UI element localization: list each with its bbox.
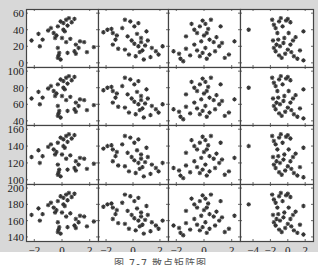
data-point: [156, 110, 160, 114]
data-point: [188, 53, 192, 57]
data-point: [199, 214, 203, 218]
data-point: [36, 148, 40, 152]
data-point: [128, 77, 132, 81]
data-point: [200, 225, 204, 229]
panel-r1-c3: [168, 9, 241, 68]
panel-r4-c1: [26, 184, 99, 242]
data-point: [213, 166, 217, 170]
data-point: [72, 75, 76, 79]
data-point: [72, 17, 76, 21]
data-point: [192, 100, 196, 104]
data-point: [53, 152, 57, 156]
data-point: [115, 33, 119, 37]
data-point: [203, 138, 207, 142]
data-point: [286, 47, 290, 51]
data-point: [116, 105, 120, 109]
data-point: [282, 36, 286, 40]
data-point: [133, 171, 137, 175]
data-point: [278, 102, 282, 106]
data-point: [120, 84, 124, 88]
data-point: [72, 107, 76, 111]
panel-r1-c2: [98, 9, 169, 68]
data-point: [275, 147, 279, 151]
data-point: [65, 198, 69, 202]
data-point: [61, 28, 65, 32]
data-point: [53, 210, 57, 214]
data-point: [280, 24, 284, 28]
data-point: [125, 92, 129, 96]
data-point: [56, 53, 60, 57]
y-tick-label: 160: [8, 123, 25, 135]
data-point: [189, 80, 193, 84]
data-point: [92, 219, 96, 223]
data-point: [276, 154, 280, 158]
x-tick-label: 0: [59, 244, 65, 252]
data-point: [109, 85, 113, 89]
data-point: [150, 220, 154, 224]
data-point: [286, 31, 290, 35]
data-point: [279, 132, 283, 136]
data-point: [286, 164, 290, 168]
data-point: [189, 138, 193, 142]
data-point: [132, 100, 136, 104]
data-point: [105, 28, 109, 32]
data-point: [223, 173, 227, 177]
data-point: [213, 107, 217, 111]
data-point: [61, 144, 65, 148]
data-point: [295, 231, 299, 235]
data-point: [49, 26, 53, 30]
data-point: [148, 229, 152, 233]
data-point: [292, 171, 296, 175]
data-point: [146, 213, 150, 217]
data-point: [78, 156, 82, 160]
data-point: [211, 40, 215, 44]
data-point: [58, 174, 62, 178]
data-point: [207, 37, 211, 41]
data-point: [111, 205, 115, 209]
data-point: [207, 169, 211, 173]
data-point: [293, 35, 297, 39]
data-point: [301, 175, 305, 179]
data-point: [40, 154, 44, 158]
x-tick-label: 2: [157, 244, 163, 252]
data-point: [280, 114, 284, 118]
data-point: [273, 49, 277, 53]
data-point: [213, 223, 217, 227]
x-tick-label: 2: [302, 244, 308, 252]
data-point: [282, 94, 286, 98]
y-tick-label: 80: [13, 82, 25, 94]
scatter-matrix: 0204060406080100100120140160140160180200…: [0, 0, 321, 252]
data-point: [38, 218, 42, 222]
data-point: [72, 133, 76, 137]
data-point: [143, 101, 147, 105]
x-tick-label: 0: [285, 244, 291, 252]
data-point: [56, 227, 60, 231]
data-point: [78, 214, 82, 218]
data-point: [246, 86, 250, 90]
data-point: [301, 232, 305, 236]
panel-r3-c3: [168, 125, 241, 185]
data-point: [207, 95, 211, 99]
data-point: [136, 137, 140, 141]
data-point: [56, 46, 60, 50]
data-point: [203, 196, 207, 200]
data-point: [218, 199, 222, 203]
data-point: [56, 82, 60, 86]
x-tick-label: −2: [170, 244, 182, 252]
data-point: [60, 152, 64, 156]
data-point: [288, 159, 292, 163]
data-point: [68, 153, 72, 157]
data-point: [286, 147, 290, 151]
x-tick-label: −4: [247, 244, 259, 252]
data-point: [282, 152, 286, 156]
data-point: [192, 159, 196, 163]
data-point: [280, 173, 284, 177]
data-point: [109, 143, 113, 147]
data-point: [128, 19, 132, 23]
data-point: [181, 176, 185, 180]
data-point: [120, 201, 124, 205]
data-point: [181, 117, 185, 121]
data-point: [65, 225, 69, 229]
data-point: [298, 223, 302, 227]
data-point: [135, 32, 139, 36]
